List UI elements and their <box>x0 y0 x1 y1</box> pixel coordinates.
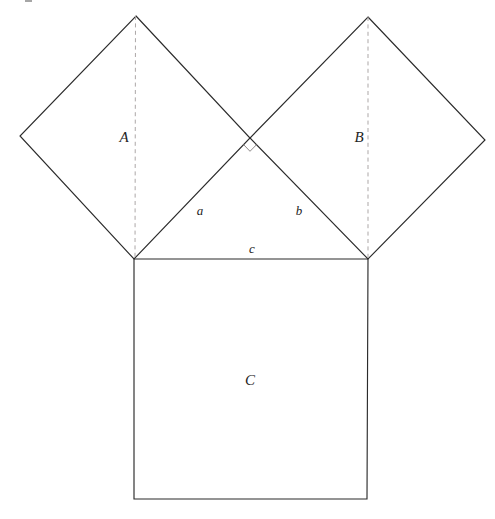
label-leg-b: b <box>296 203 303 218</box>
diagram-canvas: A B C a b c <box>0 0 495 519</box>
top-edge-artifact <box>25 0 32 2</box>
square-b-outline <box>250 17 485 259</box>
label-square-a: A <box>118 129 129 145</box>
label-leg-a: a <box>197 203 204 218</box>
square-a-diagonal-dashed <box>135 16 136 259</box>
right-angle-marker-icon <box>244 145 257 152</box>
pythagorean-diagram: A B C a b c <box>0 0 495 519</box>
label-hypotenuse-c: c <box>249 241 255 256</box>
label-square-b: B <box>354 129 363 145</box>
label-square-c: C <box>245 372 256 388</box>
